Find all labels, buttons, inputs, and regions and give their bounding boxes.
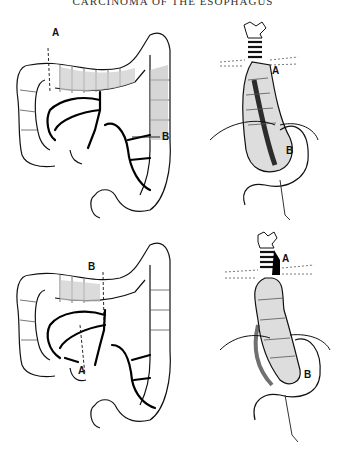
label-b: B <box>162 132 169 142</box>
label-b: B <box>286 146 293 156</box>
label-a: A <box>52 28 59 38</box>
colon-diagram-bottom: B A <box>0 230 180 459</box>
interposition-illustration <box>180 230 346 459</box>
label-a: A <box>78 366 85 376</box>
label-b: B <box>88 262 95 272</box>
colon-diagram-top: A B <box>0 20 180 220</box>
esophagus-diagram-top: A B <box>180 20 346 230</box>
label-a: A <box>272 66 279 76</box>
label-a: A <box>282 254 289 264</box>
running-header: CARCINOMA OF THE ESOPHAGUS <box>0 0 346 7</box>
esophagus-diagram-bottom: A B <box>180 230 346 459</box>
interposition-illustration <box>180 20 346 230</box>
colon-illustration <box>0 20 180 220</box>
label-b: B <box>304 370 311 380</box>
